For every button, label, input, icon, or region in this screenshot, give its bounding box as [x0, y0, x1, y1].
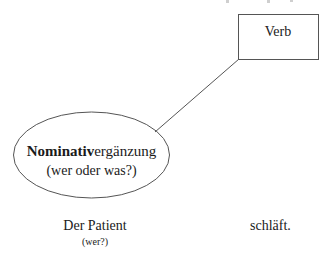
verb-box-label: Verb [238, 24, 318, 40]
sentence-verb: schläft. [250, 218, 291, 234]
sentence-subject-question: (wer?) [50, 236, 140, 247]
valency-connector-line [155, 59, 239, 132]
complement-title: Nominativergänzung [13, 143, 170, 160]
cutoff-text-fragments [226, 0, 293, 3]
complement-case-bold: Nominativ [27, 143, 95, 159]
complement-suffix: ergänzung [94, 143, 156, 159]
complement-question: (wer oder was?) [13, 163, 170, 179]
sentence-subject: Der Patient [50, 218, 140, 234]
